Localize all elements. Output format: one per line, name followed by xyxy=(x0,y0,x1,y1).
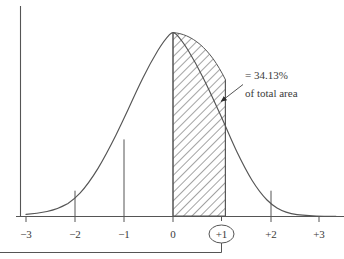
tick-label-minus1: −1 xyxy=(118,228,130,240)
x-axis-tick-labels: −3 −2 −1 0 +1 +2 +3 xyxy=(20,228,325,240)
annotation-percent-text: = 34.13% xyxy=(245,69,288,81)
tick-label-plus1: +1 xyxy=(216,228,228,240)
tick-label-minus3: −3 xyxy=(20,228,32,240)
normal-distribution-figure: −3 −2 −1 0 +1 +2 +3 = 34.13% of total ar… xyxy=(0,0,344,259)
annotation-subtext: of total area xyxy=(245,87,298,99)
shaded-area-0-to-plus1 xyxy=(170,28,230,220)
drop-lines xyxy=(75,33,271,216)
area-annotation: = 34.13% of total area xyxy=(245,69,298,99)
tick-label-zero: 0 xyxy=(170,228,176,240)
plus1-callout-line xyxy=(0,243,222,253)
tick-label-plus2: +2 xyxy=(265,228,277,240)
tick-label-minus2: −2 xyxy=(69,228,81,240)
tick-label-plus3: +3 xyxy=(313,228,325,240)
x-axis-ticks xyxy=(26,217,319,223)
